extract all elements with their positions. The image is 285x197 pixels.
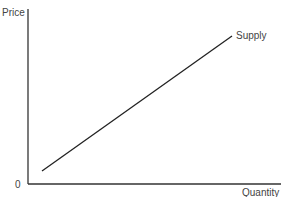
supply-label: Supply	[236, 30, 267, 41]
y-axis-label: Price	[2, 7, 25, 18]
supply-chart: Price 0 Quantity Supply	[0, 0, 285, 197]
origin-label: 0	[15, 179, 21, 190]
supply-line	[42, 36, 232, 171]
x-axis-label: Quantity	[242, 187, 279, 197]
